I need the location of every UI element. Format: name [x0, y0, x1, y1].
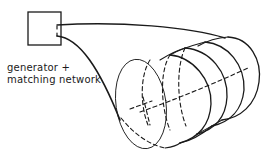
- generator-label-line1: generator +: [7, 62, 70, 74]
- feed-wire-top: [57, 24, 225, 38]
- generator-box: [28, 12, 61, 45]
- generator-label-line2: matching network: [7, 74, 101, 86]
- helical-coil: [110, 37, 259, 152]
